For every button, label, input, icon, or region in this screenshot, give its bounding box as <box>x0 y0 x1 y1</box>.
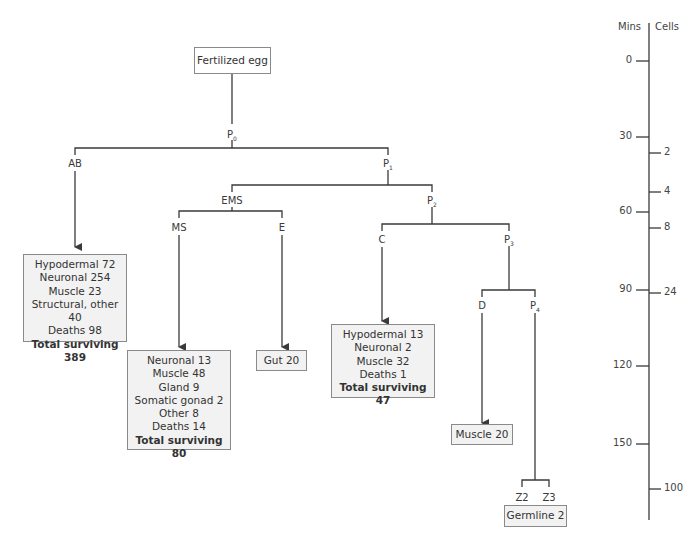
fate-line: Deaths 98 <box>24 324 126 337</box>
mins-tick-label: 60 <box>602 205 632 216</box>
fate-line: Deaths 14 <box>128 420 230 433</box>
cells-tick-label: 24 <box>664 286 677 297</box>
fate-line: Muscle 48 <box>128 367 230 380</box>
mins-tick-label: 90 <box>602 283 632 294</box>
cells-tick-label: 8 <box>664 221 670 232</box>
cells-tick-label: 100 <box>664 482 683 493</box>
fate-line: Neuronal 2 <box>332 341 434 354</box>
node-p2: P2 <box>427 195 437 208</box>
d-fate-box: Muscle 20 <box>451 424 513 445</box>
mins-tick-label: 120 <box>602 359 632 370</box>
fate-line: Muscle 20 <box>452 428 512 441</box>
e-fate-box: Gut 20 <box>256 350 307 371</box>
fate-total: Total surviving 47 <box>332 381 434 408</box>
fate-line: Germline 2 <box>505 509 566 522</box>
fate-line: Somatic gonad 2 <box>128 394 230 407</box>
cells-tick-label: 2 <box>664 146 670 157</box>
cells-header: Cells <box>655 21 679 32</box>
fate-line: Neuronal 254 <box>24 271 126 284</box>
mins-tick-label: 150 <box>602 437 632 448</box>
c-fate-box: Hypodermal 13Neuronal 2Muscle 32Deaths 1… <box>331 324 435 398</box>
node-z2: Z2 <box>515 492 528 503</box>
node-p1: P1 <box>383 158 393 171</box>
fate-line: Gut 20 <box>257 354 306 367</box>
node-e: E <box>279 222 285 233</box>
node-ems: EMS <box>221 195 242 206</box>
node-z3: Z3 <box>542 492 555 503</box>
node-ms: MS <box>172 222 187 233</box>
ms-fate-box: Neuronal 13Muscle 48Gland 9Somatic gonad… <box>127 350 231 450</box>
node-c: C <box>379 234 386 245</box>
fate-total: Total surviving 389 <box>24 338 126 365</box>
cells-tick-label: 4 <box>664 185 670 196</box>
fate-line: Deaths 1 <box>332 368 434 381</box>
node-p3: P3 <box>504 234 514 247</box>
fertilized-egg-box: Fertilized egg <box>194 47 271 74</box>
fate-line: Muscle 32 <box>332 355 434 368</box>
fate-line: Structural, other 40 <box>24 298 126 325</box>
fate-line: Other 8 <box>128 407 230 420</box>
fate-line: Neuronal 13 <box>128 354 230 367</box>
mins-header: Mins <box>618 21 641 32</box>
node-ab: AB <box>68 158 82 169</box>
fate-total: Total surviving 80 <box>128 434 230 461</box>
z-fate-box: Germline 2 <box>504 505 567 527</box>
fate-line: Muscle 23 <box>24 285 126 298</box>
mins-tick-label: 0 <box>602 54 632 65</box>
fate-line: Hypodermal 72 <box>24 258 126 271</box>
cells-ticks <box>649 153 661 489</box>
mins-tick-label: 30 <box>602 130 632 141</box>
fate-line: Gland 9 <box>128 381 230 394</box>
ab-fate-box: Hypodermal 72Neuronal 254Muscle 23Struct… <box>23 254 127 342</box>
node-p4: P4 <box>530 300 540 313</box>
mins-ticks <box>636 61 649 444</box>
fate-line: Hypodermal 13 <box>332 328 434 341</box>
node-d: D <box>478 300 486 311</box>
fertilized-egg-label: Fertilized egg <box>197 54 268 66</box>
